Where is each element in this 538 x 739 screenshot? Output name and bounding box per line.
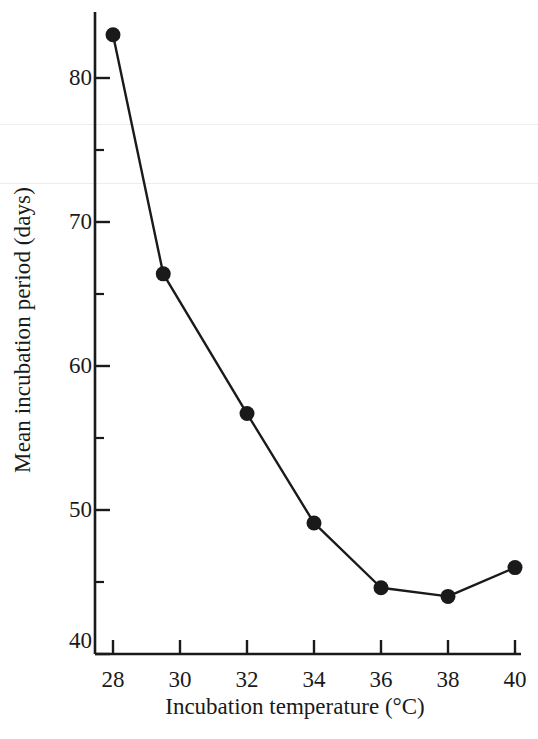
y-axis (95, 12, 110, 654)
data-point-29.5-66.4 (156, 266, 171, 281)
chart-figure: Mean incubation period (days) 80 70 60 5… (0, 0, 538, 739)
data-point-28-83 (106, 27, 121, 42)
plot-area (0, 0, 538, 739)
data-series-markers (106, 27, 523, 604)
data-point-34-49.1 (307, 515, 322, 530)
x-axis-ticks (113, 640, 515, 654)
y-axis-major-ticks (95, 78, 110, 654)
data-point-36-44.6 (374, 580, 389, 595)
x-axis (95, 640, 521, 654)
data-point-38-44 (441, 589, 456, 604)
data-point-32-56.7 (240, 406, 255, 421)
data-series-line (113, 35, 515, 597)
data-point-40-46 (508, 560, 523, 575)
